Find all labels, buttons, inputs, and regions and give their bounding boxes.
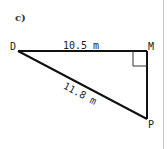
vertex-m-label: M xyxy=(148,41,154,52)
triangle-diagram xyxy=(0,0,167,149)
vertex-d-label: D xyxy=(10,41,16,52)
vertex-p-label: P xyxy=(148,119,154,130)
side-dp xyxy=(18,51,147,119)
right-angle-marker xyxy=(133,51,147,66)
side-dm-length: 10.5 m xyxy=(63,40,99,51)
